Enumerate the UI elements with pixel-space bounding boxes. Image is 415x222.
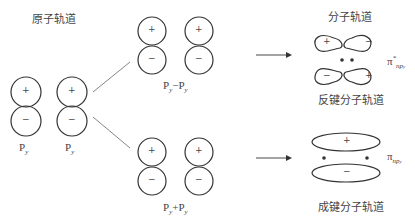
connector-line-up (93, 62, 130, 92)
orbital-diagram (0, 0, 415, 222)
sign: + (343, 135, 351, 145)
atomic-orbital-1-label: Py (19, 141, 28, 156)
sign: + (365, 70, 373, 80)
sign: − (323, 70, 331, 80)
antibonding-title: 反键分子轨道 (318, 91, 384, 107)
atomic-orbital-2-label: Py (65, 141, 74, 156)
atomic-orbital-title: 原子轨道 (32, 10, 76, 26)
pi-antibonding-label: π*npy (387, 54, 405, 70)
sign: + (148, 24, 156, 34)
sign: + (148, 145, 156, 155)
sign: − (195, 174, 203, 184)
py-minus-py-label: Py−Py (163, 79, 188, 94)
sign: + (195, 145, 203, 155)
sign: − (365, 36, 373, 46)
sign: − (148, 53, 156, 63)
sign: + (323, 36, 331, 46)
pi-bonding-label: πnpy (387, 150, 402, 165)
py-plus-py-label: Py+Py (163, 201, 188, 216)
bonding-title: 成键分子轨道 (318, 198, 384, 214)
connector-line-down (93, 117, 130, 148)
sign: − (343, 166, 351, 176)
sign: − (148, 174, 156, 184)
sign: + (68, 85, 76, 95)
sign: + (195, 24, 203, 34)
sign: − (68, 114, 76, 124)
molecular-orbital-title: 分子轨道 (328, 8, 372, 24)
sign: − (195, 53, 203, 63)
sign: − (22, 114, 30, 124)
sign: + (22, 85, 30, 95)
